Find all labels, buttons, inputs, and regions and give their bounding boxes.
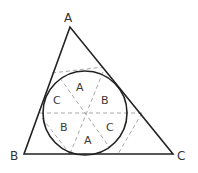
vertex-label-a: A — [64, 11, 73, 25]
region-label-bottom: A — [84, 134, 92, 147]
region-label-lower-right: C — [106, 121, 114, 134]
region-label-lower-left: B — [60, 121, 68, 134]
vertex-label-b: B — [10, 149, 18, 163]
triangle-abc — [24, 27, 173, 154]
diagram-canvas: A B C A B C B C A — [0, 0, 198, 173]
vertex-label-c: C — [177, 149, 185, 163]
region-label-upper-left: C — [53, 94, 61, 107]
triangle-incircle-figure: A B C A B C B C A — [0, 0, 198, 173]
region-label-top: A — [76, 81, 84, 94]
region-label-upper-right: B — [101, 94, 109, 107]
